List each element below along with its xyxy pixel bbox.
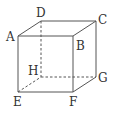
vertex-label-d: D: [36, 6, 46, 20]
edge-bc: [73, 21, 96, 36]
vertex-label-h: H: [28, 64, 38, 78]
vertex-label-e: E: [13, 95, 22, 109]
vertex-label-b: B: [76, 39, 85, 53]
vertex-label-c: C: [98, 13, 107, 27]
edge-eh: [18, 77, 41, 92]
edge-da: [18, 21, 41, 36]
edge-fg: [73, 77, 96, 92]
vertex-label-f: F: [69, 95, 77, 109]
cube-diagram: A B C D E F G H: [0, 0, 115, 116]
vertex-label-g: G: [98, 71, 108, 85]
vertex-label-a: A: [5, 30, 15, 44]
